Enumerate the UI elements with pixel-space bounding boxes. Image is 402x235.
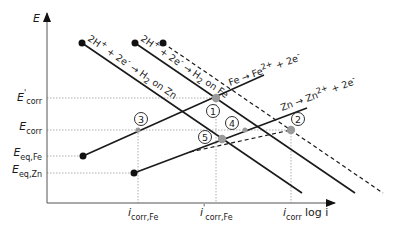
point-2-marker (287, 126, 295, 134)
point-1-label: 1 (210, 106, 216, 117)
point-2-label: 2 (295, 114, 301, 125)
evans-diagram: E log i 1 2 3 4 5 2H+ (0, 0, 402, 235)
x-tick-labels: icorr,Fe i'corr,Fe icorr (128, 204, 303, 222)
y-tick-labels: E'corr Ecorr Eeq,Fe Eeq,Zn (12, 89, 43, 179)
label-h2-on-fe: 2H+ + 2e- → H2 on Fe (137, 31, 232, 103)
y-axis-label: E (33, 12, 40, 25)
endpoint-h2-zn (79, 40, 86, 47)
x-axis-label: log i (305, 206, 328, 219)
y-label-e-corr-prime: E'corr (17, 89, 43, 106)
x-label-i-corr: icorr (283, 206, 303, 222)
point-4-marker (243, 128, 248, 133)
label-zn-oxidation: Zn → Zn2+ + 2e- (278, 73, 357, 112)
endpoint-zn-eq (131, 170, 138, 177)
guide-lines (47, 98, 291, 203)
point-5-label: 5 (202, 132, 208, 143)
y-label-e-corr: Ecorr (19, 120, 42, 136)
label-fe-oxidation: Fe → Fe2+ + 2e- (226, 50, 302, 88)
endpoint-h2-fe (132, 40, 139, 47)
point-5-marker (218, 135, 226, 143)
x-label-i-corr-fe: icorr,Fe (128, 206, 159, 222)
point-3-marker (136, 128, 141, 133)
endpoint-fe-eq (80, 153, 87, 160)
x-label-i-corr-fe-prime: i'corr,Fe (200, 204, 233, 222)
point-4-label: 4 (229, 118, 235, 129)
y-label-e-eq-zn: Eeq,Zn (12, 163, 42, 179)
point-3-label: 3 (138, 114, 144, 125)
y-label-e-eq-fe: Eeq,Fe (13, 146, 42, 162)
